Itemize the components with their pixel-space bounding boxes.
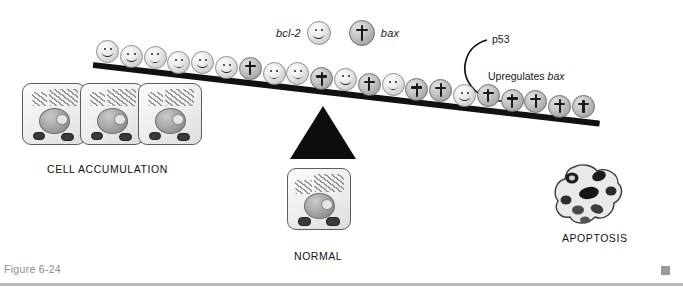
apoptosis-label: APOPTOSIS	[562, 232, 627, 244]
smiley-glyph	[454, 85, 475, 106]
beam-token-bcl2	[120, 45, 143, 68]
cross-glyph	[525, 91, 546, 112]
normal-cell-icon	[287, 168, 351, 230]
normal-label: NORMAL	[294, 250, 342, 262]
cell-accumulation-group	[22, 83, 202, 145]
cross-glyph	[478, 85, 499, 106]
beam-token-bcl2	[334, 68, 357, 91]
beam-token-bax	[310, 67, 333, 90]
beam-token-bax	[239, 57, 262, 80]
beam-token-bcl2	[263, 62, 286, 85]
cross-glyph	[240, 58, 261, 79]
beam-token-bax	[501, 89, 524, 112]
figure-caption: Figure 6-24	[4, 263, 61, 275]
smiley-glyph	[168, 52, 189, 73]
smiley-glyph	[287, 63, 308, 84]
beam-token-bcl2	[96, 40, 119, 63]
smiley-glyph	[383, 74, 404, 95]
smiley-glyph	[97, 41, 118, 62]
cell-icon	[138, 83, 202, 145]
beam-token-bcl2	[144, 46, 167, 69]
beam-token-bax	[405, 78, 428, 101]
fulcrum-triangle-icon	[290, 106, 356, 159]
apoptotic-cell-icon	[552, 163, 626, 227]
smiley-glyph	[192, 52, 213, 73]
beam-token-bcl2	[167, 51, 190, 74]
cross-glyph	[502, 90, 523, 111]
smiley-glyph	[335, 69, 356, 90]
beam-token-bax	[477, 84, 500, 107]
smiley-glyph	[121, 46, 142, 67]
beam-token-bax	[524, 90, 547, 113]
beam-token-bax	[358, 73, 381, 96]
beam-token-bcl2	[382, 73, 405, 96]
footer-divider	[0, 283, 683, 286]
beam-token-bcl2	[453, 84, 476, 107]
cell-icon	[22, 83, 86, 145]
figure-canvas: bcl-2 bax p53 Upregulates bax	[0, 0, 683, 293]
smiley-glyph	[216, 57, 237, 78]
cross-glyph	[359, 74, 380, 95]
square-marker-icon	[661, 266, 670, 275]
beam-token-bax	[572, 95, 595, 118]
cross-glyph	[549, 96, 570, 117]
cross-glyph	[430, 80, 451, 101]
smiley-glyph	[145, 47, 166, 68]
beam-token-bcl2	[191, 51, 214, 74]
beam-token-bcl2	[286, 62, 309, 85]
beam-token-bax	[548, 95, 571, 118]
cell-icon	[80, 83, 144, 145]
cross-glyph	[311, 68, 332, 89]
beam-token-bcl2	[215, 56, 238, 79]
cross-glyph	[573, 96, 594, 117]
cross-glyph	[406, 79, 427, 100]
smiley-glyph	[264, 63, 285, 84]
beam-token-bax	[429, 79, 452, 102]
cell-accumulation-label: CELL ACCUMULATION	[47, 163, 168, 175]
